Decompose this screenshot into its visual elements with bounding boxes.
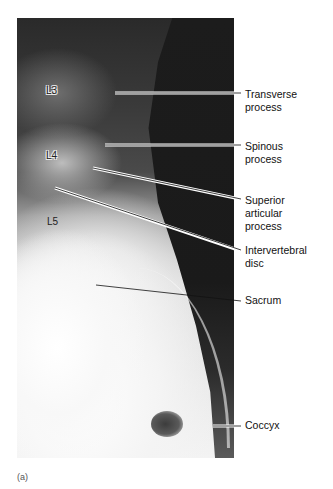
callout-line: Sacrum	[245, 294, 281, 307]
callout-transverse-process: Transverse process	[245, 88, 297, 114]
callout-spinous-process: Spinous process	[245, 140, 283, 166]
callout-superior-articular-process: Superior articular process	[245, 194, 285, 233]
radiograph-figure: L3 L4 L5 Transverse process Spinous proc…	[0, 0, 333, 489]
panel-label: (a)	[17, 472, 28, 482]
callout-line: articular	[245, 207, 285, 220]
coccyx-shadow	[151, 411, 183, 437]
callout-intervertebral-disc: Intervertebral disc	[245, 244, 307, 270]
callout-coccyx: Coccyx	[245, 419, 279, 432]
lumbosacral-xray-image	[17, 18, 234, 458]
callout-sacrum: Sacrum	[245, 294, 281, 307]
vertebra-label-l3: L3	[46, 85, 57, 96]
callout-line: process	[245, 220, 285, 233]
callout-line: process	[245, 153, 283, 166]
callout-line: Intervertebral	[245, 244, 307, 257]
vertebra-label-l4: L4	[46, 150, 57, 161]
callout-line: Transverse	[245, 88, 297, 101]
callout-line: Spinous	[245, 140, 283, 153]
callout-line: Coccyx	[245, 419, 279, 432]
callout-line: process	[245, 101, 297, 114]
callout-line: disc	[245, 257, 307, 270]
vertebra-label-l5: L5	[47, 216, 58, 227]
callout-line: Superior	[245, 194, 285, 207]
